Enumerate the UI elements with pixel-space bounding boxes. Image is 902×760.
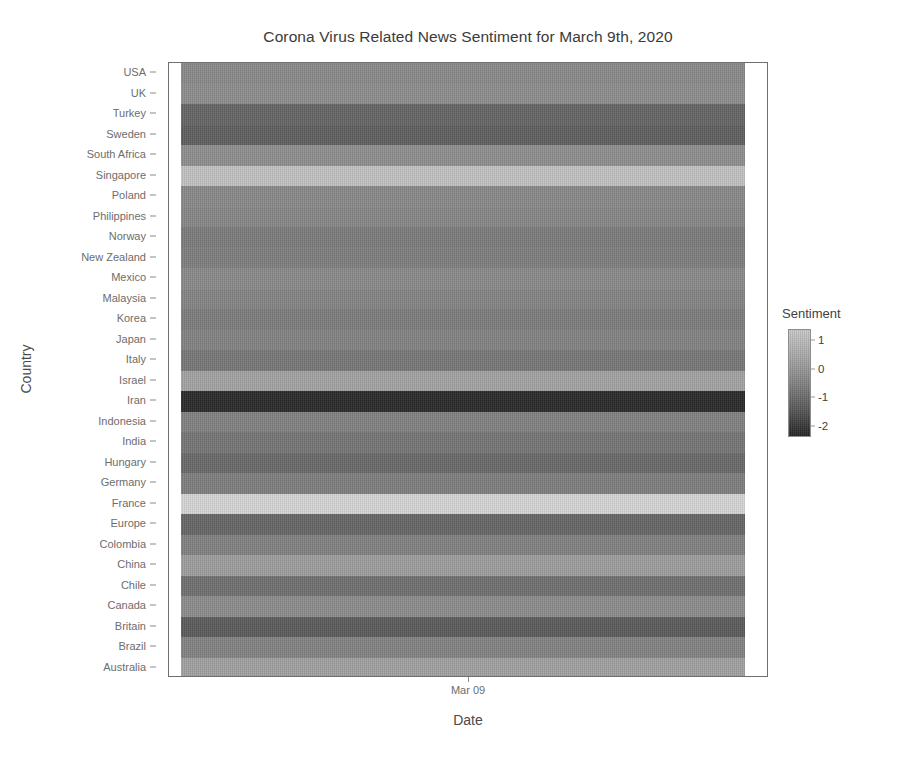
heatmap-cells (181, 63, 745, 677)
heatmap-row (181, 330, 745, 351)
y-axis-tick-mark (150, 174, 156, 175)
heatmap-row (181, 125, 745, 146)
heatmap-row (181, 494, 745, 515)
heatmap-row (181, 535, 745, 556)
y-axis-tick-label: Sweden (106, 128, 146, 140)
y-axis-tick-label: Israel (119, 374, 146, 386)
cell-grain (181, 104, 745, 125)
y-axis-tick-label: Malaysia (103, 292, 146, 304)
y-axis-tick-label: Poland (112, 189, 146, 201)
y-axis-tick-label: Indonesia (98, 415, 146, 427)
y-axis-tick-label: Japan (116, 333, 146, 345)
heatmap-row (181, 166, 745, 187)
heatmap-row (181, 309, 745, 330)
y-axis-tick-mark (150, 379, 156, 380)
y-axis-tick-mark (150, 625, 156, 626)
y-axis-tick-label: Canada (107, 599, 146, 611)
legend-tick-mark (811, 425, 815, 426)
cell-grain (181, 453, 745, 474)
heatmap-row (181, 596, 745, 617)
cell-grain (181, 432, 745, 453)
y-axis-tick-label: South Africa (87, 148, 146, 160)
y-axis-tick-mark (150, 400, 156, 401)
y-axis-tick-mark (150, 133, 156, 134)
y-axis-tick-mark (150, 420, 156, 421)
cell-grain (181, 227, 745, 248)
legend-tick-mark (811, 368, 815, 369)
legend-tick-label: -2 (818, 420, 828, 432)
y-axis-tick-mark (150, 297, 156, 298)
heatmap-row (181, 289, 745, 310)
heatmap-row (181, 555, 745, 576)
y-axis-tick-mark (150, 72, 156, 73)
y-axis-tick-label: Italy (126, 353, 146, 365)
y-axis-tick-mark (150, 113, 156, 114)
y-axis-tick-label: Iran (127, 394, 146, 406)
heatmap-row (181, 432, 745, 453)
y-axis-tick-mark (150, 318, 156, 319)
heatmap-row (181, 514, 745, 535)
x-axis-title: Date (168, 712, 768, 728)
heatmap-row (181, 104, 745, 125)
y-axis-labels: USAUKTurkeySwedenSouth AfricaSingaporePo… (0, 62, 160, 677)
cell-grain (181, 186, 745, 207)
y-axis-tick-label: Chile (121, 579, 146, 591)
heatmap-figure: Corona Virus Related News Sentiment for … (0, 0, 902, 760)
y-axis-tick-label: China (117, 558, 146, 570)
heatmap-row (181, 186, 745, 207)
cell-grain (181, 555, 745, 576)
cell-grain (181, 350, 745, 371)
cell-grain (181, 63, 745, 84)
cell-grain (181, 637, 745, 658)
y-axis-tick-label: Europe (111, 517, 146, 529)
y-axis-tick-mark (150, 646, 156, 647)
heatmap-row (181, 576, 745, 597)
y-axis-tick-mark (150, 441, 156, 442)
heatmap-row (181, 371, 745, 392)
y-axis-tick-label: Korea (117, 312, 146, 324)
y-axis-tick-mark (150, 482, 156, 483)
y-axis-tick-mark (150, 461, 156, 462)
y-axis-tick-label: Brazil (118, 640, 146, 652)
y-axis-tick-mark (150, 256, 156, 257)
x-axis-tick-mark (468, 677, 469, 682)
legend-grain (789, 330, 810, 436)
legend-tick-mark (811, 397, 815, 398)
page-title: Corona Virus Related News Sentiment for … (168, 28, 768, 46)
heatmap-row (181, 248, 745, 269)
legend-tick-label: 1 (818, 334, 824, 346)
cell-grain (181, 248, 745, 269)
y-axis-tick-label: Hungary (104, 456, 146, 468)
y-axis-tick-label: Australia (103, 661, 146, 673)
y-axis-tick-label: Turkey (113, 107, 146, 119)
cell-grain (181, 535, 745, 556)
cell-grain (181, 207, 745, 228)
cell-grain (181, 514, 745, 535)
legend-tick-mark (811, 340, 815, 341)
heatmap-row (181, 658, 745, 678)
heatmap-row (181, 473, 745, 494)
cell-grain (181, 412, 745, 433)
y-axis-tick-label: Mexico (111, 271, 146, 283)
legend-title: Sentiment (782, 306, 841, 321)
y-axis-tick-mark (150, 564, 156, 565)
heatmap-row (181, 637, 745, 658)
y-axis-tick-mark (150, 154, 156, 155)
y-axis-tick-mark (150, 236, 156, 237)
heatmap-row (181, 84, 745, 105)
y-axis-tick-label: New Zealand (81, 251, 146, 263)
y-axis-tick-label: Norway (109, 230, 146, 242)
y-axis-tick-label: Britain (115, 620, 146, 632)
heatmap-row (181, 207, 745, 228)
y-axis-tick-mark (150, 277, 156, 278)
legend-colorbar (788, 329, 811, 437)
cell-grain (181, 166, 745, 187)
heatmap-row (181, 227, 745, 248)
y-axis-tick-mark (150, 359, 156, 360)
y-axis-tick-mark (150, 523, 156, 524)
y-axis-tick-label: Philippines (93, 210, 146, 222)
heatmap-row (181, 350, 745, 371)
heatmap-row (181, 617, 745, 638)
cell-grain (181, 391, 745, 412)
y-axis-tick-label: India (122, 435, 146, 447)
